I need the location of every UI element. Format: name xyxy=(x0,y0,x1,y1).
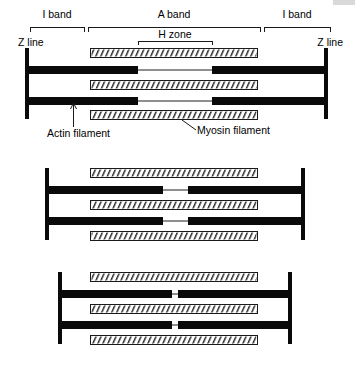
i-band-right-bracket xyxy=(265,28,331,33)
z-line-left-bar xyxy=(45,168,49,240)
fully-contracted-sarcomere-panel xyxy=(58,272,292,345)
z-line-right-bar xyxy=(324,48,328,119)
myosin-filament-hatch xyxy=(92,306,257,313)
myosin-filament-hatch xyxy=(92,170,257,177)
i-band-left-label: I band xyxy=(42,8,71,20)
actin-filament-left xyxy=(59,321,172,329)
h-zone-bracket xyxy=(139,42,213,46)
myosin-filament-hatch xyxy=(92,82,257,89)
myosin-filament-hatch xyxy=(92,337,257,344)
actin-filament-right xyxy=(212,66,326,74)
sarcomere-figure: I band A band I band H zone Z line Z lin… xyxy=(0,0,361,367)
z-line-left-bar xyxy=(25,48,29,119)
actin-callout-arrow xyxy=(71,103,77,127)
h-zone-label: H zone xyxy=(158,28,191,40)
myosin-filament-hatch xyxy=(92,202,257,209)
myosin-filament-hatch xyxy=(92,233,257,240)
a-band-label: A band xyxy=(158,8,191,20)
sarcomere-diagram-canvas: I band A band I band H zone Z line Z lin… xyxy=(0,0,361,367)
z-line-left-bar xyxy=(58,272,62,344)
myosin-callout-line xyxy=(182,120,196,130)
actin-filament-left xyxy=(26,66,138,74)
partially-contracted-sarcomere-panel xyxy=(45,168,305,241)
actin-filament-left xyxy=(59,290,172,298)
actin-filament-right xyxy=(188,186,305,194)
actin-filament-right xyxy=(188,217,305,225)
actin-filament-left xyxy=(46,186,163,194)
actin-filament-left xyxy=(26,97,138,105)
actin-filament-label: Actin filament xyxy=(47,127,110,139)
actin-filament-right xyxy=(178,290,291,298)
myosin-filament-hatch xyxy=(92,274,257,281)
band-bracket-group: I band A band I band H zone xyxy=(31,8,331,45)
actin-filament-right xyxy=(178,321,291,329)
i-band-left-bracket xyxy=(31,28,85,33)
myosin-filament-label: Myosin filament xyxy=(197,124,270,136)
actin-filament-left xyxy=(46,217,163,225)
actin-filament-right xyxy=(212,97,326,105)
i-band-right-label: I band xyxy=(282,8,311,20)
z-line-right-label: Z line xyxy=(317,36,343,48)
myosin-filament-hatch xyxy=(92,112,257,119)
z-line-right-bar xyxy=(288,272,292,344)
z-line-right-bar xyxy=(301,168,305,240)
myosin-filament-hatch xyxy=(92,50,257,57)
z-line-left-label: Z line xyxy=(18,36,44,48)
